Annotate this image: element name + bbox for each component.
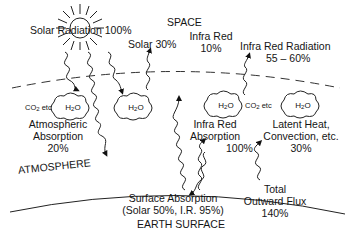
h2o-cloud-4: H2O	[288, 101, 318, 110]
h2o-cloud-1: H2O	[58, 103, 88, 112]
h2o-cloud-3: H2O	[211, 101, 241, 110]
solar-reflected-label: Solar 30%	[128, 38, 176, 50]
total-outward-flux-label: Total Outward Flux 140%	[240, 183, 310, 219]
ir-absorption-pct: 100%	[226, 142, 253, 154]
atmosphere-boundary	[12, 72, 340, 89]
solar-radiation-label: Solar Radiation 100%	[30, 24, 132, 36]
infra-red-space-label: Infra Red 10%	[188, 30, 234, 54]
h2o-cloud-2: H2O	[121, 103, 151, 112]
co2-right-label: CO2 etc	[245, 100, 272, 113]
surface-absorption-label: Surface Absorption (Solar 50%, I.R. 95%)	[110, 192, 236, 216]
ir-absorption-label: Infra Red Absorption	[184, 118, 246, 142]
space-label: SPACE	[167, 16, 202, 28]
co2-left-label: CO2 etc	[25, 102, 52, 115]
earth-surface-label: EARTH SURFACE	[137, 218, 225, 230]
cloud-icons	[51, 91, 319, 120]
atmospheric-absorption-label: Atmospheric Absorption 20%	[18, 118, 98, 154]
latent-heat-label: Latent Heat, Convection, etc. 30%	[255, 118, 347, 154]
ir-radiation-label: Infra Red Radiation 55 – 60%	[240, 40, 330, 64]
